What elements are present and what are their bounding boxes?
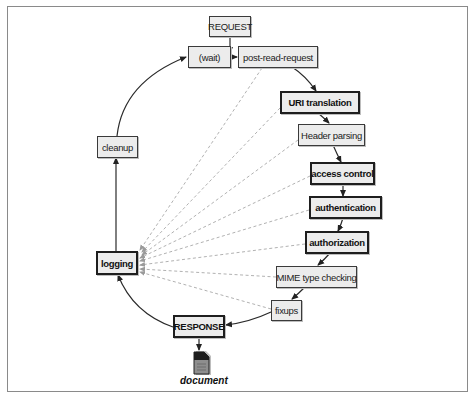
- node-authorization: authorization: [305, 231, 369, 254]
- node-label: REQUEST: [208, 21, 252, 32]
- node-label: fixups: [275, 305, 298, 316]
- node-response: RESPONSE: [173, 315, 225, 338]
- node-label: cleanup: [102, 142, 133, 153]
- node-post-read-request: post-read-request: [238, 46, 318, 68]
- node-label: access control: [311, 168, 373, 179]
- node-fixups: fixups: [271, 300, 302, 321]
- node-access-control: access control: [310, 162, 375, 185]
- node-label: URI translation: [288, 97, 351, 108]
- document-icon: [193, 351, 213, 376]
- node-label: Header parsing: [301, 130, 362, 141]
- diagram-connectors: [0, 0, 474, 399]
- node-mime-type-checking: MIME type checking: [276, 266, 357, 288]
- node-label: logging: [101, 258, 133, 269]
- node-request: REQUEST: [209, 16, 251, 37]
- node-label: authentication: [315, 202, 376, 213]
- node-logging: logging: [96, 251, 138, 275]
- node-label: post-read-request: [243, 52, 313, 63]
- node-authentication: authentication: [309, 196, 382, 219]
- node-label: MIME type checking: [276, 272, 356, 283]
- node-label: RESPONSE: [174, 321, 224, 332]
- node-label: (wait): [199, 52, 220, 63]
- node-wait: (wait): [188, 46, 231, 68]
- node-cleanup: cleanup: [97, 136, 138, 158]
- node-header-parsing: Header parsing: [298, 124, 365, 146]
- node-uri-translation: URI translation: [280, 91, 360, 114]
- node-label: authorization: [309, 237, 365, 248]
- document-label: document: [180, 375, 228, 386]
